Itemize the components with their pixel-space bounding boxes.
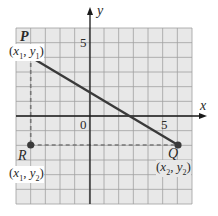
point-R <box>27 141 34 148</box>
origin-label: 0 <box>80 118 87 131</box>
point-R-label: R <box>18 149 27 163</box>
x-tick-5: 5 <box>161 118 168 131</box>
y-tick-5: 5 <box>80 36 87 49</box>
point-Q-coords: (x2, y2) <box>156 160 191 177</box>
x-axis-label: x <box>200 99 206 113</box>
y-axis-arrow-icon <box>87 7 93 15</box>
coordinate-plane <box>0 0 218 216</box>
y-axis-label: y <box>97 4 103 18</box>
x-axis-arrow-icon <box>199 113 207 119</box>
point-P-coords: (x1, y1) <box>9 44 44 61</box>
point-R-coords: (x1, y2) <box>9 166 44 183</box>
point-P-label: P <box>20 30 29 44</box>
